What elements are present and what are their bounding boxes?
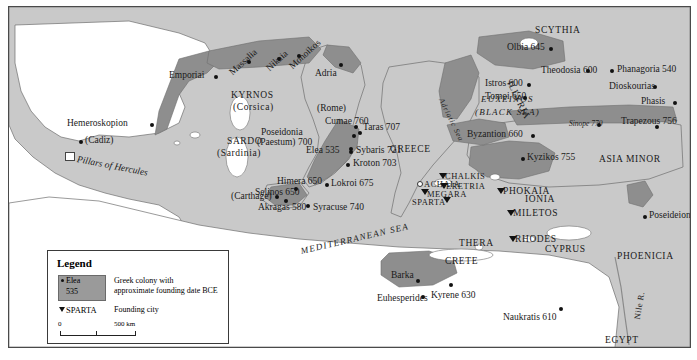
legend-colony-dot-icon xyxy=(61,279,64,282)
city-dot-lokroi xyxy=(325,183,329,187)
city-label-kyzikos: Kyzikos 755 xyxy=(527,153,575,163)
legend-colony-city: Elea xyxy=(66,275,80,286)
city-label-kroton: Kroton 703 xyxy=(353,159,397,169)
island-balearics-b xyxy=(174,141,180,145)
city-label-dioskourias: Dioskourias xyxy=(609,82,655,92)
legend-scale-end: 500 km xyxy=(114,320,135,328)
city-label-trapezous: Trapezous 756 xyxy=(621,117,677,127)
city-dot-hemeroskopion xyxy=(150,123,154,127)
legend-founding-city-description: Founding city xyxy=(114,305,159,314)
city-dot-barka xyxy=(416,279,420,283)
legend-colony-description: Greek colony with approximate founding d… xyxy=(114,276,224,296)
legend-scale-tick xyxy=(96,331,97,335)
city-dot-olbia xyxy=(549,47,553,51)
region-label-greece: GREECE xyxy=(390,145,431,155)
city-label-hemeroskopion: Hemeroskopion xyxy=(67,119,128,129)
region-label-ionia: IONIA xyxy=(525,195,555,205)
legend-colony-desc-line2: approximate founding date BCE xyxy=(114,286,224,296)
map-container: Emporiai Hemeroskopion (Cadiz) Pillars o… xyxy=(0,0,697,360)
city-dot-trapezous xyxy=(655,125,659,129)
founding-city-marker-phokaia xyxy=(497,188,505,194)
city-dot-kyrene xyxy=(449,283,453,287)
city-dot-selinos xyxy=(275,195,279,199)
legend-colony-example: Elea 535 xyxy=(66,275,80,297)
region-label-scythia: SCYTHIA xyxy=(535,26,580,36)
city-dot-emporiai xyxy=(214,75,218,79)
map-frame: Emporiai Hemeroskopion (Cadiz) Pillars o… xyxy=(8,6,691,348)
city-label-emporiai: Emporiai xyxy=(169,71,204,81)
city-dot-taras xyxy=(358,131,362,135)
city-dot-syracuse xyxy=(306,204,310,208)
city-dot-kroton xyxy=(346,163,350,167)
city-dot-monoikos xyxy=(297,54,301,58)
region-label-cyprus: CYPRUS xyxy=(545,245,586,255)
city-dot-sybaris xyxy=(349,150,353,154)
city-dot-massalia xyxy=(247,60,251,64)
sea-label-euxeinos: EUXEINOS xyxy=(481,95,534,104)
island-balearics-a xyxy=(190,132,200,138)
city-label-cumae: Cumae 760 xyxy=(325,117,369,127)
city-dot-adria xyxy=(339,63,343,67)
city-label-akragas: Akragas 580 xyxy=(258,203,306,213)
region-label-corsica: (Corsica) xyxy=(233,103,274,113)
legend-founding-city-triangle-icon xyxy=(59,307,65,312)
city-dot-theodosia xyxy=(586,69,590,73)
city-dot-phasis xyxy=(673,101,677,105)
city-label-elea: Elea 535 xyxy=(306,146,340,156)
city-dot-sinope xyxy=(597,123,601,127)
city-label-olbia: Olbia 645 xyxy=(507,43,545,53)
city-label-adria: Adria xyxy=(315,69,337,79)
city-label-istros: Istros 600 xyxy=(485,79,523,89)
region-label-phoenicia: PHOENICIA xyxy=(617,252,674,262)
legend-founding-city-label: SPARTA xyxy=(66,305,97,315)
city-dot-kyzikos xyxy=(521,157,525,161)
region-marker-achaia xyxy=(417,181,423,187)
legend-scale-bar xyxy=(60,331,136,336)
legend-box: Legend Elea 535 Greek colony with approx… xyxy=(47,250,229,344)
city-dot-byzantion xyxy=(531,134,535,138)
pillars-marker-icon xyxy=(65,152,75,161)
city-dot-istros xyxy=(527,83,531,87)
city-label-phasis: Phasis xyxy=(641,97,665,107)
city-label-himera: Himera 650 xyxy=(277,177,322,187)
city-label-naukratis: Naukratis 610 xyxy=(503,313,557,323)
city-label-taras: Taras 707 xyxy=(363,123,400,133)
legend-colony-desc-line1: Greek colony with xyxy=(114,276,224,286)
city-dot-poseidonia xyxy=(352,134,356,138)
sea-label-black-sea: (BLACK SEA) xyxy=(475,108,540,117)
city-dot-cumae xyxy=(354,125,358,129)
city-dot-dioskourias xyxy=(653,85,657,89)
founding-city-marker-miletos xyxy=(507,210,515,216)
city-label-euhesperides: Euhesperides xyxy=(377,294,428,304)
region-label-asia-minor: ASIA MINOR xyxy=(599,155,661,165)
region-label-achaia: ACHAIA xyxy=(424,180,460,189)
city-dot-phanagoria xyxy=(610,69,614,73)
city-label-phanagoria: Phanagoria 540 xyxy=(617,65,676,75)
island-lesbos xyxy=(490,174,500,180)
city-label-syracuse: Syracuse 740 xyxy=(313,203,364,213)
city-label-rome: (Rome) xyxy=(317,104,346,114)
city-label-paestum: (Paestum) 700 xyxy=(257,138,312,148)
city-label-cadiz: (Cadiz) xyxy=(85,136,114,146)
city-dot-cadiz xyxy=(79,140,83,144)
city-label-barka: Barka xyxy=(391,271,414,281)
city-label-kyrene: Kyrene 630 xyxy=(431,291,476,301)
city-label-lokroi: Lokroi 675 xyxy=(331,179,373,189)
city-dot-naukratis xyxy=(559,307,563,311)
legend-colony-date: 535 xyxy=(66,286,80,297)
region-label-egypt: EGYPT xyxy=(605,336,639,346)
city-label-poseideion: Poseideion xyxy=(649,211,691,221)
founding-city-label-miletos: MILETOS xyxy=(513,209,558,219)
founding-city-marker-rhodes xyxy=(509,236,517,242)
city-dot-akragas xyxy=(284,199,288,203)
founding-city-marker-megara xyxy=(421,189,429,195)
region-label-thera: THERA xyxy=(459,239,494,249)
legend-title: Legend xyxy=(57,257,92,269)
region-label-sardinia: (Sardinia) xyxy=(217,149,261,159)
city-label-byzantion: Byzantion 660 xyxy=(467,130,523,140)
founding-city-label-sparta: SPARTA xyxy=(412,198,446,207)
region-label-kyrnos: KYRNOS xyxy=(231,91,274,101)
city-dot-nikaia xyxy=(277,57,281,61)
city-dot-poseideion xyxy=(643,215,647,219)
city-dot-euhesperides xyxy=(421,295,425,299)
